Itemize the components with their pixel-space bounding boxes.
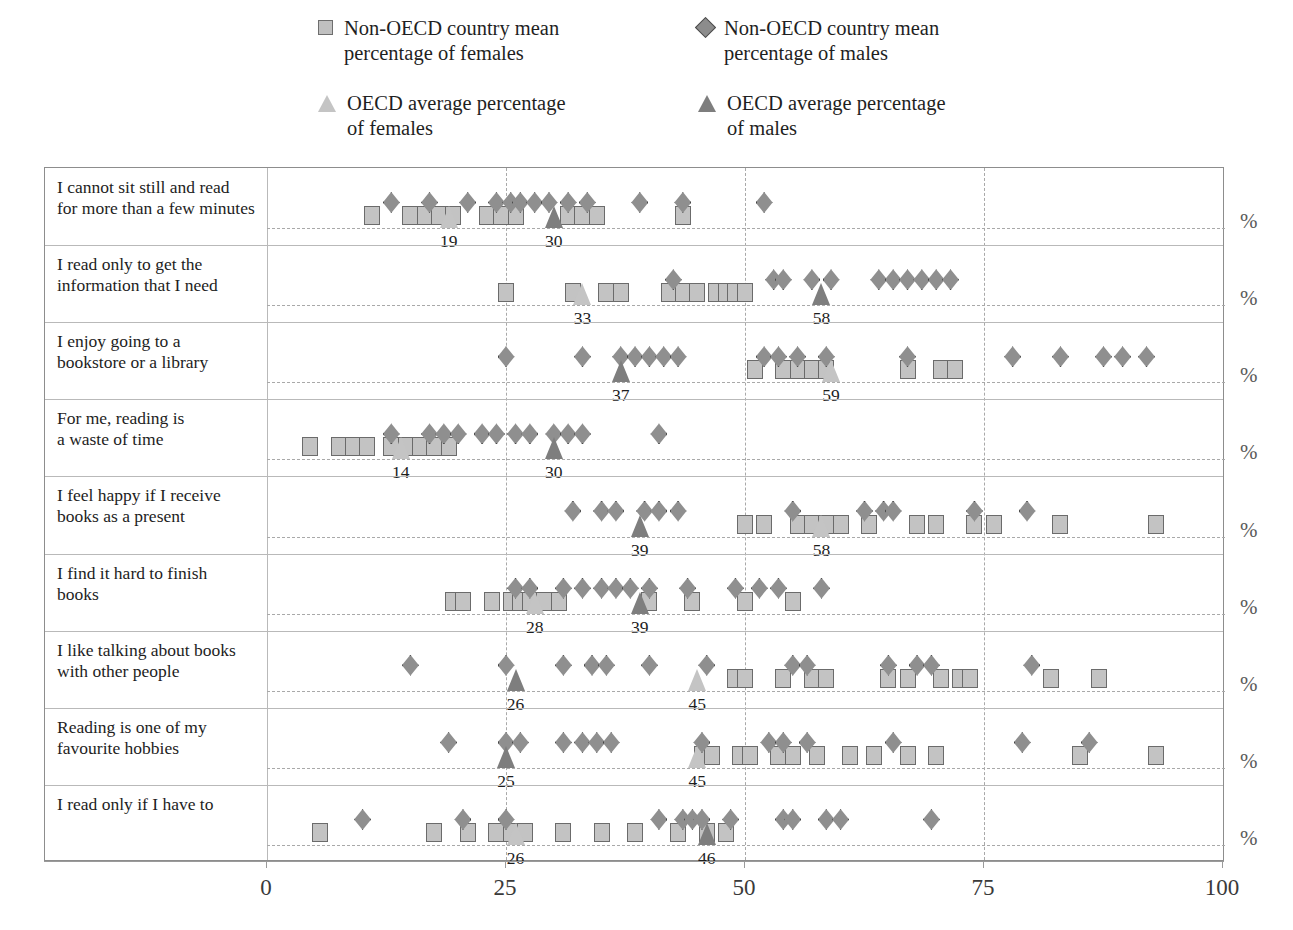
female-marker <box>1091 669 1107 688</box>
triangle-dark-icon <box>698 95 716 112</box>
male-marker <box>670 501 687 522</box>
female-marker <box>1148 746 1164 765</box>
oecd-male-average-marker <box>698 823 716 845</box>
male-marker <box>574 346 591 367</box>
oecd-male-average-marker <box>612 360 630 382</box>
percent-label: % <box>1240 363 1258 388</box>
male-marker <box>641 655 658 676</box>
female-marker <box>900 746 916 765</box>
male-marker <box>832 809 849 830</box>
male-marker <box>354 809 371 830</box>
oecd-female-average-marker <box>573 283 591 305</box>
female-marker <box>302 437 318 456</box>
diamond-dark-icon <box>698 20 713 35</box>
female-marker <box>737 515 753 534</box>
row-baseline <box>267 459 1225 460</box>
row-label: I read only if I have to <box>57 794 263 815</box>
legend-item-3: OECD average percentage of males <box>698 91 946 141</box>
male-marker <box>885 501 902 522</box>
male-marker <box>775 269 792 290</box>
female-marker <box>928 746 944 765</box>
row-label: I cannot sit still and read for more tha… <box>57 177 263 219</box>
male-marker <box>564 501 581 522</box>
row-baseline <box>267 305 1225 306</box>
triangle-light-icon <box>318 95 336 112</box>
x-tick-label-75: 75 <box>953 875 1013 901</box>
row-label: I find it hard to finish books <box>57 563 263 605</box>
male-marker <box>1019 501 1036 522</box>
percent-label: % <box>1240 826 1258 851</box>
female-marker <box>737 283 753 302</box>
male-marker <box>498 346 515 367</box>
female-marker <box>900 669 916 688</box>
x-tick-label-0: 0 <box>236 875 296 901</box>
female-marker <box>594 823 610 842</box>
female-marker <box>627 823 643 842</box>
female-marker <box>555 823 571 842</box>
percent-label: % <box>1240 672 1258 697</box>
female-marker <box>747 360 763 379</box>
female-marker <box>986 515 1002 534</box>
male-marker <box>1138 346 1155 367</box>
male-marker <box>521 423 538 444</box>
male-marker <box>942 269 959 290</box>
chart-row-3: For me, reading is a waste of time%1430 <box>45 399 1225 476</box>
female-marker <box>962 669 978 688</box>
female-marker <box>933 669 949 688</box>
male-marker <box>813 578 830 599</box>
male-marker <box>459 192 476 213</box>
legend-label: OECD average percentage of males <box>727 91 946 141</box>
x-axis-line <box>44 861 1224 862</box>
oecd-male-average-marker <box>545 206 563 228</box>
oecd-male-average-marker <box>545 437 563 459</box>
male-marker <box>751 578 768 599</box>
female-marker <box>785 592 801 611</box>
female-marker <box>866 746 882 765</box>
male-marker <box>607 501 624 522</box>
female-marker <box>455 592 471 611</box>
x-tick-label-25: 25 <box>475 875 535 901</box>
chart-row-4: I feel happy if I receive books as a pre… <box>45 476 1225 553</box>
oecd-female-average-marker <box>822 360 840 382</box>
chart-row-6: I like talking about books with other pe… <box>45 631 1225 708</box>
legend-label: OECD average percentage of females <box>347 91 566 141</box>
female-marker <box>589 206 605 225</box>
row-baseline <box>267 382 1225 383</box>
male-marker <box>574 578 591 599</box>
oecd-female-average-marker <box>688 669 706 691</box>
oecd-female-average-marker <box>440 206 458 228</box>
male-marker <box>1095 346 1112 367</box>
oecd-female-average-marker <box>812 515 830 537</box>
chart-legend: Non-OECD country mean percentage of fema… <box>318 8 1018 158</box>
female-marker <box>756 515 772 534</box>
oecd-male-average-marker <box>497 746 515 768</box>
chart-row-0: I cannot sit still and read for more tha… <box>45 168 1225 245</box>
oecd-female-average-marker <box>688 746 706 768</box>
male-marker <box>631 192 648 213</box>
percent-label: % <box>1240 518 1258 543</box>
x-tick-50 <box>744 861 745 868</box>
legend-item-1: Non-OECD country mean percentage of male… <box>698 16 939 66</box>
x-axis: 0255075100 <box>44 861 1224 921</box>
x-tick-25 <box>505 861 506 868</box>
oecd-male-average-marker <box>631 592 649 614</box>
male-marker <box>555 655 572 676</box>
percent-label: % <box>1240 595 1258 620</box>
male-marker <box>1023 655 1040 676</box>
male-marker <box>756 192 773 213</box>
row-label: For me, reading is a waste of time <box>57 408 263 450</box>
row-baseline <box>267 845 1225 846</box>
male-marker <box>1014 732 1031 753</box>
female-marker <box>498 283 514 302</box>
female-marker <box>1052 515 1068 534</box>
x-tick-100 <box>1222 861 1223 868</box>
male-marker <box>598 655 615 676</box>
male-marker <box>488 423 505 444</box>
oecd-male-average-marker <box>631 515 649 537</box>
square-light-icon <box>318 20 333 35</box>
male-marker <box>923 809 940 830</box>
x-tick-label-100: 100 <box>1192 875 1252 901</box>
female-marker <box>312 823 328 842</box>
male-marker <box>402 655 419 676</box>
legend-item-0: Non-OECD country mean percentage of fema… <box>318 16 559 66</box>
